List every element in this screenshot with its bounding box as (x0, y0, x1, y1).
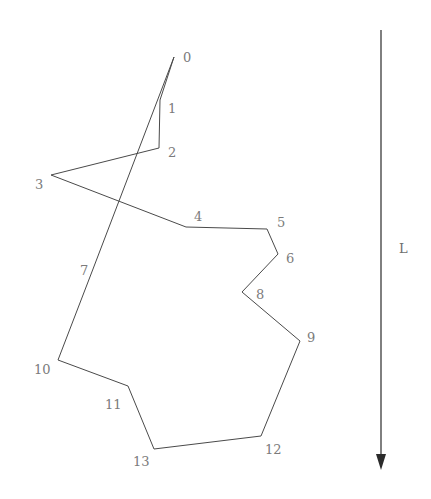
vertex-label-3: 3 (35, 178, 43, 191)
vertex-label-13: 13 (133, 455, 150, 468)
direction-arrow-group (376, 30, 386, 470)
vertex-label-12: 12 (265, 443, 282, 456)
vertex-label-5: 5 (277, 216, 285, 229)
vertex-label-9: 9 (307, 331, 315, 344)
vertex-label-0: 0 (183, 51, 191, 64)
vertex-label-10: 10 (34, 363, 51, 376)
arrow-head-icon (376, 454, 386, 470)
vertex-label-4: 4 (194, 210, 202, 223)
vertex-label-11: 11 (105, 398, 122, 411)
vertex-label-7: 7 (80, 264, 88, 277)
vertex-label-6: 6 (286, 252, 294, 265)
axis-label-L: L (399, 242, 408, 255)
vertex-label-8: 8 (256, 288, 264, 301)
vertex-label-2: 2 (168, 146, 176, 159)
polygon-figure (0, 0, 431, 499)
diagram-canvas: 012345689121311107 L (0, 0, 431, 499)
vertex-label-1: 1 (168, 102, 176, 115)
